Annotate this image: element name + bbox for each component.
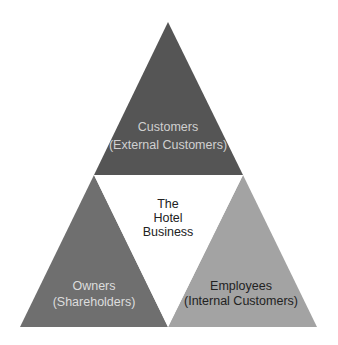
customers-subtitle: (External Customers) xyxy=(109,138,227,152)
hotel-business-triangle-diagram: Customers (External Customers) The Hotel… xyxy=(0,0,338,345)
center-label-line-3: Business xyxy=(143,225,194,239)
owners-title: Owners xyxy=(72,279,115,293)
diagram-canvas: Customers (External Customers) The Hotel… xyxy=(0,0,338,345)
center-label-line-1: The xyxy=(157,197,179,211)
owners-subtitle: (Shareholders) xyxy=(53,295,136,309)
employees-subtitle: (Internal Customers) xyxy=(184,294,298,308)
center-label-line-2: Hotel xyxy=(153,211,182,225)
customers-title: Customers xyxy=(138,120,198,134)
customers-triangle xyxy=(94,22,243,175)
employees-title: Employees xyxy=(210,279,272,293)
